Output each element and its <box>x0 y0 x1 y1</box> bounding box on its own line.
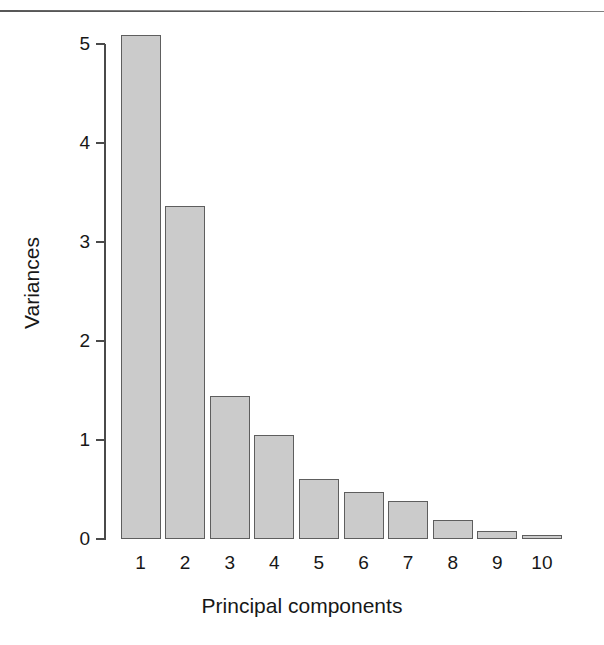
bar <box>433 520 473 539</box>
y-axis-tick-label-text: 3 <box>52 232 90 251</box>
y-axis-tick <box>96 43 105 45</box>
y-axis-tick-label-text: 5 <box>52 34 90 53</box>
bar <box>165 206 205 539</box>
bar <box>344 492 384 539</box>
y-axis-tick-label: 0 <box>48 529 90 548</box>
y-axis-tick-label: 2 <box>48 331 90 350</box>
y-axis-tick-label-text: 1 <box>52 430 90 449</box>
y-axis-tick <box>96 241 105 243</box>
y-axis-tick <box>96 340 105 342</box>
y-axis-tick <box>96 538 105 540</box>
y-axis-spine <box>104 44 106 540</box>
y-axis-tick-label-text: 0 <box>52 529 90 548</box>
bar <box>299 479 339 539</box>
y-axis-tick-label: 5 <box>48 34 90 53</box>
x-axis-tick-label: 10 <box>512 552 572 574</box>
bar <box>522 535 562 539</box>
bar <box>388 501 428 539</box>
bar <box>254 435 294 539</box>
bar <box>210 396 250 539</box>
bar <box>121 35 161 539</box>
y-axis-tick-label: 3 <box>48 232 90 251</box>
plot-area: 012345 12345678910 Principal components … <box>0 0 604 645</box>
bar <box>477 531 517 539</box>
y-axis-tick-label: 4 <box>48 133 90 152</box>
y-axis-title: Variances <box>17 203 47 363</box>
y-axis-tick <box>96 439 105 441</box>
y-axis-tick-label: 1 <box>48 430 90 449</box>
scree-plot-figure: 012345 12345678910 Principal components … <box>0 0 604 645</box>
x-axis-title: Principal components <box>0 594 604 618</box>
y-axis-tick-label-text: 2 <box>52 331 90 350</box>
y-axis-tick-label-text: 4 <box>52 133 90 152</box>
y-axis-tick <box>96 142 105 144</box>
